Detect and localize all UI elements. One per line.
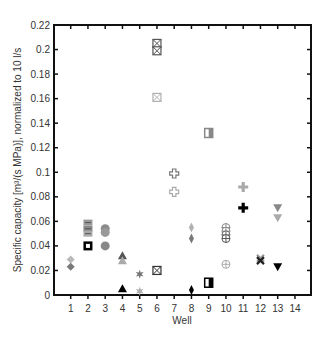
data-point-square-striped bbox=[83, 241, 92, 250]
y-tick-label: 0.1 bbox=[36, 167, 50, 178]
x-tick-label: 9 bbox=[206, 303, 212, 314]
data-point-square-striped bbox=[83, 220, 92, 226]
data-point-square-striped bbox=[83, 231, 92, 237]
data-point-half-square bbox=[205, 129, 213, 138]
x-tick-label: 10 bbox=[220, 303, 232, 314]
y-tick-label: 0.12 bbox=[31, 142, 51, 153]
data-point-circle bbox=[101, 241, 110, 250]
data-point-triangle-down bbox=[273, 204, 282, 212]
data-point-thin-diamond bbox=[189, 223, 194, 233]
x-tick-label: 4 bbox=[120, 303, 126, 314]
x-tick-label: 6 bbox=[154, 303, 160, 314]
data-point-triangle-down bbox=[273, 263, 282, 271]
x-tick-label: 14 bbox=[289, 303, 301, 314]
y-tick-label: 0.14 bbox=[31, 118, 51, 129]
plot-frame bbox=[54, 25, 311, 295]
y-axis-label: Specific capacity [m³/(s MPa)], normaliz… bbox=[12, 48, 23, 273]
data-point-circle bbox=[101, 228, 110, 237]
data-point-square-x bbox=[153, 93, 161, 101]
x-axis-label: Well bbox=[172, 315, 191, 326]
x-tick-label: 8 bbox=[189, 303, 195, 314]
scatter-chart: 00.020.040.060.080.10.120.140.160.180.20… bbox=[0, 0, 330, 338]
data-point-circle-plus bbox=[222, 235, 230, 243]
y-tick-label: 0.08 bbox=[31, 191, 51, 202]
x-axis: 1234567891011121314 bbox=[68, 25, 301, 314]
y-tick-label: 0.16 bbox=[31, 93, 51, 104]
x-tick-label: 12 bbox=[255, 303, 267, 314]
data-points bbox=[67, 39, 283, 295]
y-tick-label: 0.22 bbox=[31, 20, 51, 31]
y-tick-label: 0.2 bbox=[36, 44, 50, 55]
data-point-circle-plus bbox=[222, 260, 230, 268]
data-point-square-x bbox=[153, 266, 161, 274]
y-tick-label: 0.02 bbox=[31, 265, 51, 276]
x-tick-label: 5 bbox=[137, 303, 143, 314]
y-tick-label: 0.04 bbox=[31, 240, 51, 251]
x-tick-label: 1 bbox=[68, 303, 74, 314]
x-tick-label: 11 bbox=[238, 303, 249, 314]
data-point-open-cross bbox=[170, 187, 179, 196]
x-tick-label: 13 bbox=[272, 303, 284, 314]
x-tick-label: 3 bbox=[102, 303, 108, 314]
y-tick-label: 0.18 bbox=[31, 69, 51, 80]
data-point-triangle-down bbox=[273, 214, 282, 222]
data-point-square-x bbox=[153, 47, 161, 55]
data-point-triangle-up bbox=[118, 284, 127, 292]
data-point-thin-diamond bbox=[189, 234, 194, 244]
data-point-thin-diamond bbox=[189, 285, 194, 295]
data-point-diamond bbox=[67, 255, 75, 263]
data-point-cross bbox=[238, 182, 248, 192]
data-point-diamond bbox=[67, 263, 75, 271]
data-point-cross bbox=[238, 203, 248, 213]
data-point-star bbox=[136, 270, 144, 279]
x-tick-label: 7 bbox=[171, 303, 177, 314]
data-point-half-square bbox=[205, 278, 213, 287]
y-tick-label: 0.06 bbox=[31, 216, 51, 227]
x-tick-label: 2 bbox=[85, 303, 91, 314]
y-tick-label: 0 bbox=[44, 290, 50, 301]
data-point-open-cross bbox=[170, 169, 179, 178]
